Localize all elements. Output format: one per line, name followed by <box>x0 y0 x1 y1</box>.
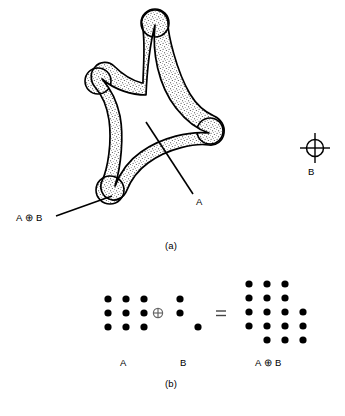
dot <box>299 336 306 343</box>
dot <box>104 323 111 330</box>
dot <box>263 308 270 315</box>
dot <box>140 295 147 302</box>
caption-panel-a: (a) <box>165 240 177 251</box>
label-dilated-set-a-plus-b: A ⊕ B <box>16 212 42 223</box>
operator-dilation-icon <box>153 308 162 317</box>
dot <box>122 323 129 330</box>
dot <box>194 323 201 330</box>
dot <box>245 308 252 315</box>
dot <box>263 322 270 329</box>
label-dot-set-result: A ⊕ B <box>255 357 281 368</box>
dot <box>281 322 288 329</box>
morphological-dilation-figure <box>0 0 345 416</box>
dot <box>263 294 270 301</box>
dot <box>104 295 111 302</box>
dot <box>245 294 252 301</box>
dot <box>176 295 183 302</box>
dot <box>299 308 306 315</box>
label-dot-set-b: B <box>180 357 187 368</box>
dot <box>245 322 252 329</box>
dot <box>122 309 129 316</box>
caption-panel-b: (b) <box>165 378 177 389</box>
dot <box>104 309 111 316</box>
dot <box>140 309 147 316</box>
dot <box>281 280 288 287</box>
dot <box>176 309 183 316</box>
dot <box>281 336 288 343</box>
dilation-band <box>0 0 345 416</box>
dot <box>245 280 252 287</box>
dot <box>281 294 288 301</box>
dot <box>122 295 129 302</box>
dot <box>140 323 147 330</box>
dot <box>263 336 270 343</box>
label-original-set-a: A <box>196 196 203 207</box>
label-structuring-element-b: B <box>308 166 315 177</box>
dot <box>281 308 288 315</box>
dot <box>299 322 306 329</box>
label-dot-set-a: A <box>120 357 127 368</box>
dot <box>263 280 270 287</box>
dot-set-a <box>104 295 147 330</box>
